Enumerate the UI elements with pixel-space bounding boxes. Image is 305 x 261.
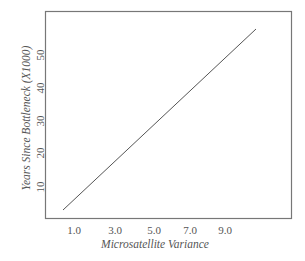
y-tick-labels: 10 20 30 40 50: [34, 49, 46, 193]
y-tick-label: 30: [34, 115, 46, 127]
plot-frame: [46, 12, 292, 219]
chart: 1.0 3.0 5.0 7.0 9.0 Microsatellite Varia…: [0, 0, 305, 261]
y-tick-label: 10: [34, 181, 46, 193]
y-tick-label: 50: [34, 49, 46, 61]
x-tick-label: 5.0: [147, 224, 161, 236]
data-line: [63, 29, 256, 210]
x-tick-labels: 1.0 3.0 5.0 7.0 9.0: [67, 224, 232, 236]
x-tick-label: 1.0: [67, 224, 81, 236]
x-axis-title: Microsatellite Variance: [100, 238, 209, 250]
x-tick-label: 3.0: [108, 224, 122, 236]
y-axis-title: Years Since Bottleneck (X1000): [20, 45, 33, 190]
x-tick-label: 9.0: [218, 224, 232, 236]
y-tick-label: 40: [34, 82, 46, 94]
x-tick-label: 7.0: [183, 224, 197, 236]
y-tick-label: 20: [34, 147, 46, 159]
